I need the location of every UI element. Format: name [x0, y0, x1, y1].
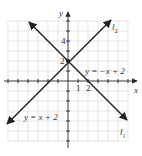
x-axis-label: x — [134, 86, 138, 95]
equation-l1: y = −x + 2 — [85, 67, 125, 76]
l2-subscript: 2 — [115, 28, 118, 34]
y-tick-4: 4 — [61, 37, 66, 46]
x-tick-1: 1 — [76, 84, 81, 93]
y-tick-2: 2 — [60, 57, 65, 66]
l2-label: l2 — [112, 23, 118, 34]
equation-l2: y = x + 2 — [24, 113, 58, 122]
intersection-point — [66, 59, 70, 63]
x-tick-2: 2 — [86, 84, 91, 93]
y-axis-label: y — [59, 9, 63, 18]
l1-label: l1 — [120, 128, 126, 139]
l1-subscript: 1 — [123, 133, 126, 139]
